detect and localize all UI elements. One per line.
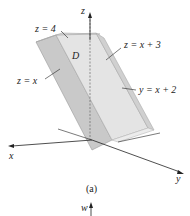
surface-label-top: z = 4 (35, 23, 56, 34)
y-axis-label: y (176, 173, 180, 184)
figure-caption: (a) (86, 183, 97, 194)
z-axis-label: z (81, 5, 85, 16)
surface-label-side: y = x + 2 (139, 84, 176, 95)
w-axis-label: w (81, 202, 88, 213)
region-label: D (72, 50, 79, 61)
surface-label-slant: z = x + 3 (124, 39, 161, 50)
x-axis-label: x (9, 150, 13, 161)
surface-label-bottom: z = x (17, 75, 37, 86)
